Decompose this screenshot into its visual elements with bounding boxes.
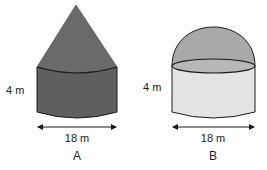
- width-label-b: 18 m: [201, 132, 225, 144]
- figure-a: 4 m 18 m A: [6, 5, 117, 163]
- cylinder-a-body: [37, 67, 117, 118]
- height-label-b: 4 m: [143, 81, 161, 93]
- cylinder-b-top-ellipse: [172, 59, 255, 73]
- figure-b: 4 m 18 m B: [143, 27, 255, 163]
- height-label-a: 4 m: [6, 84, 24, 96]
- figure-label-b: B: [209, 149, 217, 163]
- diagram-canvas: 4 m 18 m A 4 m 18 m B: [0, 0, 267, 170]
- cone-a: [37, 5, 117, 73]
- figure-label-a: A: [73, 149, 81, 163]
- width-label-a: 18 m: [65, 132, 89, 144]
- cylinder-b-body: [172, 66, 255, 118]
